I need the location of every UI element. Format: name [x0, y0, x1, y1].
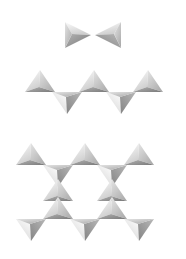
figure-root — [0, 0, 186, 259]
tetrahedra-figure — [0, 0, 186, 259]
